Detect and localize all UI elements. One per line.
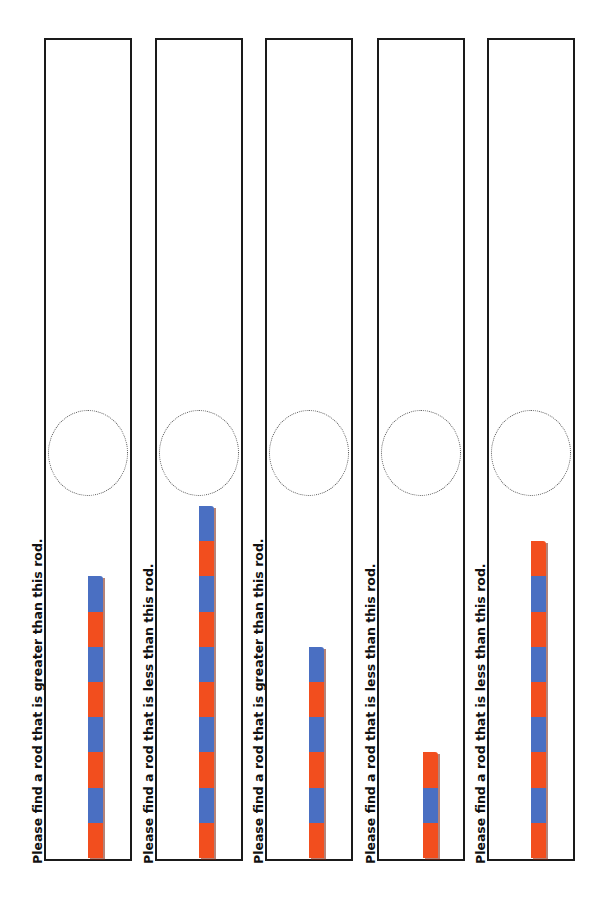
red-segment — [88, 823, 103, 858]
blue-segment — [88, 647, 103, 682]
blue-segment — [199, 788, 214, 823]
red-segment — [88, 682, 103, 717]
blue-segment — [88, 717, 103, 752]
blue-segment — [531, 647, 546, 682]
instruction-label-5: Please find a rod that is less than this… — [473, 563, 488, 864]
blue-segment — [199, 576, 214, 611]
red-segment — [199, 541, 214, 576]
rod-card-4 — [377, 38, 465, 861]
blue-segment — [309, 647, 324, 682]
blue-segment — [531, 717, 546, 752]
red-segment — [531, 541, 546, 576]
red-segment — [88, 612, 103, 647]
instruction-label-2: Please find a rod that is less than this… — [141, 563, 156, 864]
blue-segment — [199, 717, 214, 752]
red-segment — [309, 823, 324, 858]
instruction-label-1: Please find a rod that is greater than t… — [30, 538, 45, 864]
instruction-label-3: Please find a rod that is greater than t… — [251, 538, 266, 864]
number-rod-3 — [309, 647, 324, 858]
red-segment — [199, 612, 214, 647]
number-rod-2 — [199, 506, 214, 858]
number-rod-5 — [531, 541, 546, 858]
red-segment — [531, 682, 546, 717]
answer-circle — [381, 410, 461, 496]
red-segment — [309, 752, 324, 787]
instruction-label-4: Please find a rod that is less than this… — [363, 563, 378, 864]
red-segment — [309, 682, 324, 717]
blue-segment — [531, 576, 546, 611]
red-segment — [88, 752, 103, 787]
blue-segment — [309, 788, 324, 823]
red-segment — [531, 752, 546, 787]
answer-circle — [491, 410, 571, 496]
blue-segment — [199, 506, 214, 541]
number-rod-1 — [88, 576, 103, 858]
blue-segment — [531, 788, 546, 823]
red-segment — [423, 823, 438, 858]
red-segment — [531, 823, 546, 858]
red-segment — [199, 823, 214, 858]
red-segment — [199, 682, 214, 717]
number-rod-4 — [423, 752, 438, 858]
blue-segment — [309, 717, 324, 752]
answer-circle — [48, 410, 128, 496]
blue-segment — [88, 576, 103, 611]
red-segment — [423, 752, 438, 787]
blue-segment — [88, 788, 103, 823]
answer-circle — [269, 410, 349, 496]
red-segment — [199, 752, 214, 787]
blue-segment — [423, 788, 438, 823]
red-segment — [531, 612, 546, 647]
answer-circle — [159, 410, 239, 496]
blue-segment — [199, 647, 214, 682]
